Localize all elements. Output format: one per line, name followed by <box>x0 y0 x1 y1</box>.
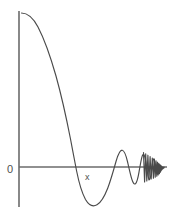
wave-packet-dense-region <box>144 153 165 183</box>
origin-label: 0 <box>7 164 13 175</box>
x-axis-label: x <box>85 173 90 182</box>
figure-root: 0 x <box>0 0 169 217</box>
damped-oscillation-curve <box>22 13 161 206</box>
damped-oscillation-plot <box>0 0 169 217</box>
